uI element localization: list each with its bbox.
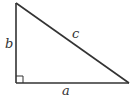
label-b: b xyxy=(5,36,13,51)
right-angle-marker xyxy=(16,76,23,83)
right-triangle-diagram: b c a xyxy=(0,0,136,101)
label-a: a xyxy=(62,83,70,98)
label-c: c xyxy=(72,26,80,41)
side-c-hypotenuse xyxy=(16,3,129,83)
